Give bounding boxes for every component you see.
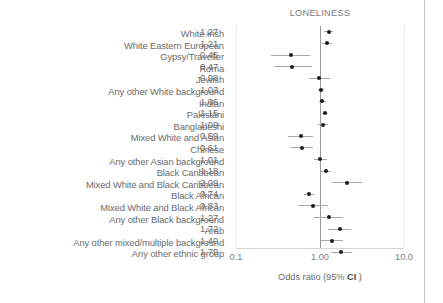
- odds-ratio-point: [319, 88, 323, 92]
- odds-ratio-point: [330, 239, 334, 243]
- odds-ratio-value: 1.15: [200, 107, 224, 119]
- row-label: White Eastern European1.21: [0, 38, 224, 50]
- odds-ratio-value: 1.18: [200, 165, 224, 177]
- row-label: Roma0.47: [0, 61, 224, 73]
- odds-ratio-value: 0.61: [200, 142, 224, 154]
- reference-line: [320, 26, 321, 248]
- plot-area: [236, 26, 404, 248]
- odds-ratio-value: 1.01: [200, 154, 224, 166]
- x-axis-title: Odds ratio (95% CI ): [236, 272, 404, 282]
- odds-ratio-point: [289, 53, 293, 57]
- x-axis-title-prefix: Odds ratio (95%: [278, 272, 347, 282]
- row-label: Pakistani1.15: [0, 107, 224, 119]
- row-label-column: White Irish1.27White Eastern European1.2…: [0, 26, 224, 258]
- row-label: Mixed White and Black African0.83: [0, 200, 224, 212]
- odds-ratio-value: 1.27: [200, 212, 224, 224]
- odds-ratio-value: 1.06: [200, 96, 224, 108]
- x-tick-label-2: 10.0: [384, 252, 424, 262]
- odds-ratio-value: 0.59: [200, 130, 224, 142]
- odds-ratio-point: [327, 215, 331, 219]
- odds-ratio-value: 0.47: [200, 61, 224, 73]
- odds-ratio-point: [321, 123, 325, 127]
- row-label: Bangladeshi1.09: [0, 119, 224, 131]
- row-label: Indian1.06: [0, 96, 224, 108]
- odds-ratio-point: [311, 204, 315, 208]
- x-tick-label-1: 1.00: [300, 252, 340, 262]
- x-axis-title-ci: CI: [347, 272, 356, 282]
- odds-ratio-point: [324, 169, 328, 173]
- odds-ratio-point: [345, 181, 349, 185]
- row-label: Arab1.72: [0, 223, 224, 235]
- row-label: White Irish1.27: [0, 26, 224, 38]
- row-label: Any other White background1.03: [0, 84, 224, 96]
- row-label: Chinese0.61: [0, 142, 224, 154]
- odds-ratio-value: 0.98: [200, 72, 224, 84]
- row-label: Gypsy/Traveller0.45: [0, 49, 224, 61]
- odds-ratio-value: 1.72: [200, 223, 224, 235]
- odds-ratio-value: 1.21: [200, 38, 224, 50]
- row-label: Black Caribbean1.18: [0, 165, 224, 177]
- odds-ratio-point: [320, 99, 324, 103]
- x-tick-label-0: 0.1: [216, 252, 256, 262]
- odds-ratio-point: [325, 41, 329, 45]
- odds-ratio-value: 0.45: [200, 49, 224, 61]
- odds-ratio-value: 1.40: [200, 235, 224, 247]
- odds-ratio-point: [300, 146, 304, 150]
- odds-ratio-value: 2.09: [200, 177, 224, 189]
- row-label: Mixed White and Black Caribbean2.09: [0, 177, 224, 189]
- row-label: Any other ethnic group1.79: [0, 246, 224, 258]
- x-gridline-0: [236, 26, 237, 248]
- odds-ratio-value: 1.03: [200, 84, 224, 96]
- page-divider-rule: [424, 0, 425, 303]
- x-gridline-1: [404, 26, 405, 248]
- row-label: Mixed White and Asian0.59: [0, 130, 224, 142]
- row-label: Any other mixed/multiple background1.40: [0, 235, 224, 247]
- odds-ratio-value: 0.83: [200, 200, 224, 212]
- odds-ratio-value: 0.74: [200, 188, 224, 200]
- odds-ratio-value: 1.09: [200, 119, 224, 131]
- odds-ratio-value: 1.27: [200, 26, 224, 38]
- row-label: Any other Black background1.27: [0, 212, 224, 224]
- odds-ratio-point: [299, 134, 303, 138]
- row-label: Any other Asian background1.01: [0, 154, 224, 166]
- odds-ratio-point: [327, 30, 331, 34]
- x-axis-title-suffix: ): [356, 272, 362, 282]
- row-label: Jewish0.98: [0, 72, 224, 84]
- odds-ratio-point: [318, 157, 322, 161]
- odds-ratio-point: [338, 227, 342, 231]
- odds-ratio-point: [307, 192, 311, 196]
- row-label: Black African0.74: [0, 188, 224, 200]
- odds-ratio-point: [323, 111, 327, 115]
- plot-title: LONELINESS: [236, 8, 404, 18]
- x-axis-line: [236, 248, 404, 249]
- forest-plot-figure: LONELINESS White Irish1.27White Eastern …: [0, 0, 443, 303]
